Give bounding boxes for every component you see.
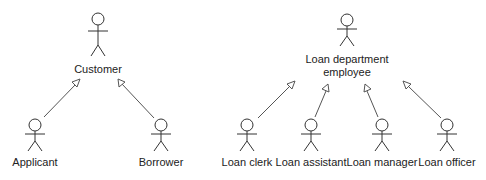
actor-label-borrower: Borrower (139, 156, 184, 168)
generalization-loan-clerk-employee (258, 81, 295, 118)
generalization-applicant-customer (44, 79, 80, 117)
actor-label-applicant: Applicant (12, 156, 57, 168)
actor-loan-officer: Loan officer (418, 119, 476, 168)
hollow-triangle-arrow-icon (364, 84, 371, 92)
actor-label-loan-officer: Loan officer (418, 156, 476, 168)
actor-label-loan-department-employee-line2: employee (323, 66, 371, 78)
hollow-triangle-arrow-icon (322, 84, 329, 92)
actor-label-loan-clerk: Loan clerk (222, 156, 273, 168)
hollow-triangle-arrow-icon (72, 79, 80, 87)
stick-figure-icon (437, 119, 457, 151)
actor-loan-department-employee: Loan department employee (305, 14, 388, 78)
generalization-loan-manager-employee (364, 84, 378, 117)
actor-customer: Customer (74, 13, 122, 75)
stick-figure-icon (151, 119, 171, 151)
generalization-loan-assistant-employee (315, 84, 329, 117)
stick-figure-icon (88, 13, 108, 56)
stick-figure-icon (372, 119, 392, 151)
actor-loan-manager: Loan manager (347, 119, 418, 168)
stick-figure-icon (337, 14, 357, 46)
actor-label-customer: Customer (74, 63, 122, 75)
uml-actor-diagram: Customer Applicant Borrower (0, 0, 486, 180)
stick-figure-icon (25, 119, 45, 151)
actor-loan-clerk: Loan clerk (222, 119, 273, 168)
actor-label-loan-department-employee-line1: Loan department (305, 53, 388, 65)
actor-label-loan-manager: Loan manager (347, 156, 418, 168)
generalization-loan-officer-employee (403, 81, 441, 118)
generalization-borrower-customer (118, 79, 154, 118)
stick-figure-icon (301, 119, 321, 151)
actor-applicant: Applicant (12, 119, 57, 168)
actor-label-loan-assistant: Loan assistant (276, 156, 347, 168)
actor-borrower: Borrower (139, 119, 184, 168)
actor-loan-assistant: Loan assistant (276, 119, 347, 168)
stick-figure-icon (237, 119, 257, 151)
